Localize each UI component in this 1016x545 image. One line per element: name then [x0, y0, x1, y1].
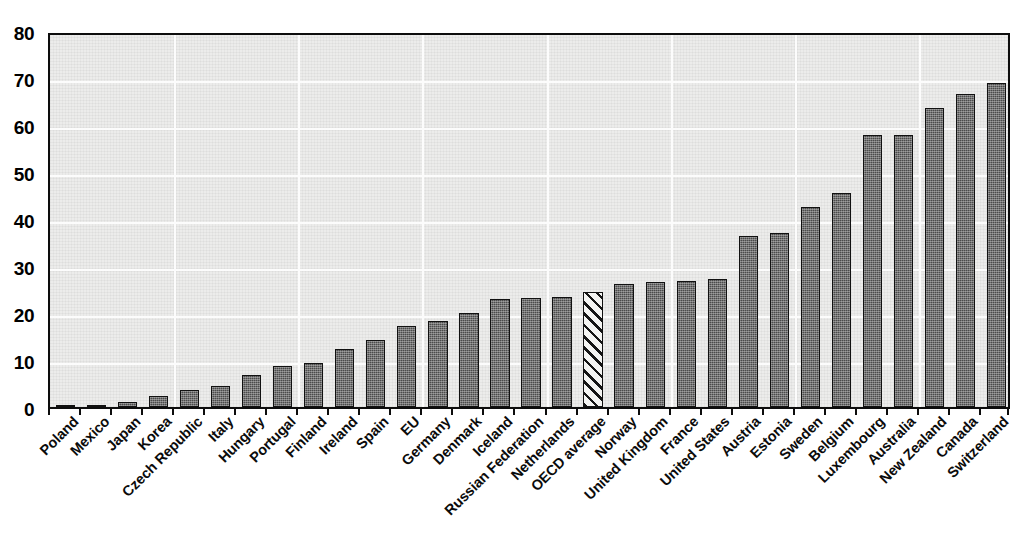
y-axis-tick-label: 60	[0, 118, 34, 137]
y-axis-tick-label: 70	[0, 71, 34, 90]
bar	[739, 236, 758, 407]
bar	[56, 405, 75, 407]
bar	[366, 340, 385, 407]
y-axis-tick-label: 0	[0, 400, 34, 419]
bar-series	[50, 35, 1008, 407]
bar	[149, 396, 168, 407]
bar	[770, 233, 789, 407]
bar	[304, 363, 323, 407]
x-axis-category-label: EU	[398, 414, 422, 438]
bar	[397, 326, 416, 407]
bar	[490, 299, 509, 407]
bar-chart: 01020304050607080 PolandMexicoJapanKorea…	[0, 0, 1016, 545]
bar	[583, 292, 602, 407]
bar	[87, 405, 106, 407]
bar	[211, 386, 230, 407]
x-axis-labels: PolandMexicoJapanKoreaCzech RepublicItal…	[48, 414, 1016, 545]
y-axis-tick-label: 20	[0, 306, 34, 325]
bar	[180, 390, 199, 407]
bar	[956, 94, 975, 407]
y-axis-tick-label: 40	[0, 212, 34, 231]
bar	[646, 282, 665, 407]
bar	[925, 108, 944, 407]
x-axis-category-label: Spain	[353, 414, 391, 452]
bar	[273, 366, 292, 407]
plot-area	[48, 33, 1010, 409]
bar	[614, 284, 633, 407]
bar	[552, 297, 571, 407]
bar	[428, 321, 447, 407]
bar	[987, 83, 1006, 407]
bar	[801, 207, 820, 407]
y-axis-tick-label: 10	[0, 353, 34, 372]
bar	[894, 135, 913, 407]
y-axis-tick-label: 30	[0, 259, 34, 278]
bar	[677, 281, 696, 407]
bar	[459, 313, 478, 407]
bar	[335, 349, 354, 407]
bar	[863, 135, 882, 407]
y-axis-tick-label: 50	[0, 165, 34, 184]
bar	[832, 193, 851, 407]
y-axis-tick-label: 80	[0, 24, 34, 43]
bar	[118, 402, 137, 407]
bar	[521, 298, 540, 407]
bar	[708, 279, 727, 407]
bar	[242, 375, 261, 407]
y-axis: 01020304050607080	[0, 0, 48, 545]
